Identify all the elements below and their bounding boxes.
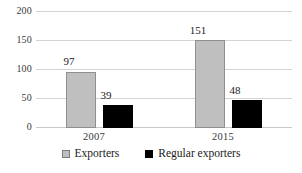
x-category-2007: 2007 (68, 131, 120, 143)
plot-area (36, 11, 292, 128)
gridline-150 (36, 40, 292, 41)
legend-swatch-icon-exporters (62, 150, 70, 158)
data-label-regular-exporters-2015: 48 (217, 84, 253, 96)
data-label-regular-exporters-2007: 39 (88, 89, 124, 101)
data-label-exporters-2015: 151 (180, 24, 216, 36)
y-tick-200: 200 (0, 6, 32, 16)
bar-regular-exporters-2007 (103, 105, 133, 128)
y-tick-100: 100 (0, 64, 32, 74)
bar-regular-exporters-2015 (232, 100, 262, 128)
gridline-100 (36, 69, 292, 70)
y-tick-0: 0 (0, 122, 32, 132)
legend-swatch-icon-regular-exporters (145, 150, 153, 158)
legend-label-regular-exporters: Regular exporters (158, 147, 240, 160)
y-tick-150: 150 (0, 35, 32, 45)
legend-label-exporters: Exporters (75, 147, 120, 160)
gridline-200 (36, 11, 292, 12)
legend-item-exporters[interactable]: Exporters (62, 147, 120, 160)
x-category-2015: 2015 (197, 131, 249, 143)
data-label-exporters-2007: 97 (51, 55, 87, 67)
legend-item-regular-exporters[interactable]: Regular exporters (145, 147, 240, 160)
chart-legend: Exporters Regular exporters (0, 147, 302, 160)
bar-chart: 200 150 100 50 0 97 39 151 48 2007 2015 … (0, 0, 302, 173)
y-tick-50: 50 (0, 93, 32, 103)
